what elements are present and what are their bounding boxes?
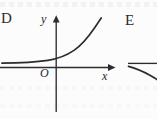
figure-vector-layer: [0, 0, 157, 119]
panel-e-graph: [128, 63, 157, 79]
figure-root: D E y x O: [0, 0, 157, 119]
decreasing-curve: [129, 66, 158, 79]
exponential-growth-curve: [2, 18, 101, 63]
y-axis-arrowhead-icon: [53, 15, 60, 22]
x-axis-arrowhead-icon: [108, 64, 116, 71]
panel-d-graph: [0, 15, 116, 112]
